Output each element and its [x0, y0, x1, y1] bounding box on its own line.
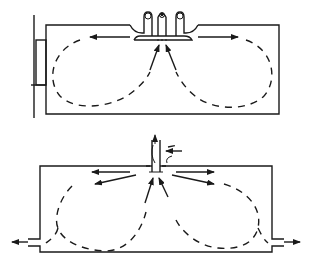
- diffuser-plate: [134, 36, 192, 40]
- left-recirculation-loop: [53, 40, 150, 106]
- left-outlet-branch: [46, 228, 58, 243]
- entrainment-curve: [167, 156, 172, 163]
- center-pipe-fixture: [158, 13, 166, 37]
- right-outlet-branch: [258, 228, 268, 243]
- top-panel: [31, 12, 279, 118]
- bottom-panel: [12, 135, 300, 252]
- room-outline-bottom: [28, 166, 284, 252]
- airflow-diagram: [0, 0, 313, 266]
- entrainment-dash: [168, 145, 178, 147]
- right-recirculation-loop-bottom: [176, 184, 259, 248]
- wall-panel: [36, 40, 46, 85]
- right-recirculation-loop: [176, 40, 272, 107]
- right-return-arrow: [166, 45, 176, 70]
- right-lower-jet-arrow: [172, 175, 214, 184]
- right-pipe-fixture: [176, 12, 198, 36]
- right-return-arrow-bottom: [159, 178, 168, 197]
- left-recirculation-loop-bottom: [57, 186, 146, 251]
- left-pipe-fixture: [130, 12, 152, 36]
- jet-nozzle: [146, 135, 166, 172]
- left-lower-jet-arrow: [95, 175, 136, 184]
- left-return-arrow-bottom: [145, 178, 153, 203]
- room-outline: [46, 25, 279, 114]
- left-return-arrow: [150, 45, 159, 70]
